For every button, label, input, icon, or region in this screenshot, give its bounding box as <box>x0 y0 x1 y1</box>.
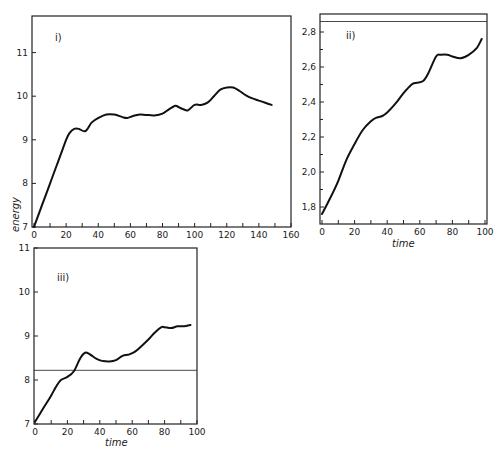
x-axis-label-time-iii: time <box>105 437 128 448</box>
energy-curve <box>322 39 482 214</box>
x-tick-label: 0 <box>319 227 325 237</box>
x-tick-label: 80 <box>447 227 459 237</box>
x-tick-label: 100 <box>476 227 493 237</box>
energy-time-figure: 0204060801001201401607891011 02040608010… <box>0 0 503 458</box>
y-tick-label: 7 <box>22 222 28 232</box>
x-tick-label: 100 <box>188 427 205 437</box>
x-tick-label: 20 <box>62 427 74 437</box>
x-tick-label: 0 <box>32 427 38 437</box>
y-tick-label: 2,4 <box>302 97 317 107</box>
x-tick-label: 60 <box>125 230 137 240</box>
plot-frame <box>320 14 487 224</box>
x-tick-label: 80 <box>159 427 171 437</box>
panel-i-label: i) <box>55 32 62 43</box>
panel-iii-label: iii) <box>57 272 69 283</box>
x-tick-label: 120 <box>218 230 235 240</box>
x-tick-label: 0 <box>31 230 37 240</box>
x-tick-label: 40 <box>93 230 105 240</box>
x-tick-label: 20 <box>60 230 72 240</box>
y-tick-label: 2,2 <box>302 132 316 142</box>
y-tick-label: 8 <box>24 375 30 385</box>
x-tick-label: 40 <box>94 427 106 437</box>
panel-iii-chart: 0204060801007891011 <box>19 243 206 437</box>
panel-i-chart: 0204060801001201401607891011 <box>17 16 300 240</box>
x-axis-label-time-ii: time <box>392 238 415 249</box>
x-tick-label: 60 <box>414 227 426 237</box>
x-tick-label: 100 <box>186 230 203 240</box>
y-tick-label: 9 <box>24 331 30 341</box>
x-tick-label: 60 <box>126 427 138 437</box>
y-axis-label-energy: energy <box>10 196 21 232</box>
y-tick-label: 2,8 <box>302 27 317 37</box>
x-tick-label: 140 <box>250 230 267 240</box>
panel-ii-label: ii) <box>346 30 356 41</box>
plot-frame <box>32 16 291 227</box>
x-tick-label: 20 <box>349 227 361 237</box>
y-tick-label: 10 <box>19 287 31 297</box>
energy-curve <box>34 87 272 227</box>
y-tick-label: 8 <box>22 178 28 188</box>
y-tick-label: 9 <box>22 135 28 145</box>
y-tick-label: 11 <box>19 243 30 253</box>
y-tick-label: 7 <box>24 419 30 429</box>
y-tick-label: 2,0 <box>302 167 317 177</box>
y-tick-label: 2,6 <box>302 62 317 72</box>
x-tick-label: 80 <box>157 230 169 240</box>
y-tick-label: 11 <box>17 48 28 58</box>
y-tick-label: 10 <box>17 91 29 101</box>
panel-ii-chart: 0204060801001,82,02,22,42,62,8 <box>302 14 494 237</box>
energy-curve <box>35 325 191 422</box>
x-tick-label: 40 <box>381 227 393 237</box>
x-tick-label: 160 <box>282 230 299 240</box>
y-tick-label: 1,8 <box>302 202 317 212</box>
